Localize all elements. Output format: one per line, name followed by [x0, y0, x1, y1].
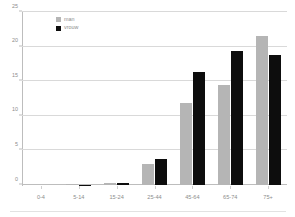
bar-vrouw-45-64 [193, 72, 205, 185]
bar-group [98, 12, 136, 185]
x-axis-tick: 0-4 [22, 186, 60, 201]
bar-vrouw-65-74 [231, 51, 243, 185]
x-axis-tick-mark [117, 186, 118, 189]
chart-legend: manvrouw [56, 17, 78, 34]
bar-vrouw-75+ [269, 55, 281, 185]
x-axis-tick-mark [41, 186, 42, 189]
x-axis-tick-mark [268, 186, 269, 189]
x-axis-tick-label: 65-74 [211, 195, 249, 201]
bar-vrouw-25-44 [155, 159, 167, 185]
bar-group [60, 12, 98, 185]
y-axis-tick-label: 20 [12, 39, 22, 44]
bar-man-45-64 [180, 103, 192, 185]
x-axis-tick-label: 75+ [249, 195, 287, 201]
y-axis-tick-label: 10 [12, 108, 22, 113]
x-axis-tick: 15-24 [98, 186, 136, 201]
bar-group [211, 12, 249, 185]
x-axis-tick-label: 5-14 [60, 195, 98, 201]
x-axis-tick: 45-64 [173, 186, 211, 201]
x-axis-tick-mark [79, 186, 80, 189]
x-axis-tick: 75+ [249, 186, 287, 201]
bar-man-25-44 [142, 164, 154, 185]
x-axis-tick-label: 45-64 [173, 195, 211, 201]
bar-vrouw-15-24 [117, 183, 129, 185]
x-axis-tick: 25-44 [136, 186, 174, 201]
bar-man-15-24 [104, 183, 116, 185]
x-axis-tick: 65-74 [211, 186, 249, 201]
x-axis-tick-label: 25-44 [136, 195, 174, 201]
bar-group [173, 12, 211, 185]
bar-man-65-74 [218, 85, 230, 185]
y-axis-tick-label: 5 [15, 142, 22, 147]
legend-swatch-icon [56, 17, 61, 22]
x-axis-tick-mark [155, 186, 156, 189]
legend-label: man [64, 17, 75, 22]
y-axis-tick-label: 0 [15, 177, 22, 182]
legend-entry: vrouw [56, 25, 78, 30]
bar-group [136, 12, 174, 185]
bar-group [22, 12, 60, 185]
bar-chart: 0510152025 0-45-1415-2425-4445-6465-7475… [0, 0, 295, 217]
bar-man-75+ [256, 36, 268, 185]
x-axis: 0-45-1415-2425-4445-6465-7475+ [22, 186, 287, 201]
y-axis-tick-label: 15 [12, 73, 22, 78]
x-axis-tick-label: 0-4 [22, 195, 60, 201]
bottom-divider [10, 211, 286, 212]
x-axis-tick-mark [230, 186, 231, 189]
legend-swatch-icon [56, 26, 61, 31]
x-axis-tick-mark [192, 186, 193, 189]
bar-groups [22, 12, 287, 185]
y-axis-tick-label: 25 [12, 4, 22, 9]
x-axis-tick: 5-14 [60, 186, 98, 201]
plot-area: 0510152025 [22, 12, 287, 185]
bar-group [249, 12, 287, 185]
bar-man-5-14 [66, 184, 78, 185]
legend-label: vrouw [64, 25, 78, 30]
legend-entry: man [56, 17, 78, 22]
x-axis-tick-label: 15-24 [98, 195, 136, 201]
